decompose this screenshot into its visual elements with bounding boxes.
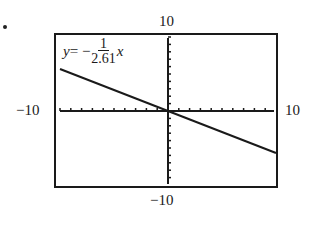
xmax-label: 10 (285, 103, 300, 118)
ymax-label: 10 (159, 14, 174, 29)
equation-lhs: y (63, 43, 70, 60)
fraction-numerator: 1 (98, 37, 109, 51)
ymin-label: −10 (150, 193, 173, 208)
equation-equals: = − (70, 43, 91, 60)
fraction-denominator: 2.61 (91, 51, 116, 66)
equation-variable: x (117, 43, 124, 60)
equation-fraction: 1 2.61 (91, 37, 116, 66)
equation-label: y = − 1 2.61 x (63, 37, 124, 66)
xmin-label: −10 (16, 103, 39, 118)
